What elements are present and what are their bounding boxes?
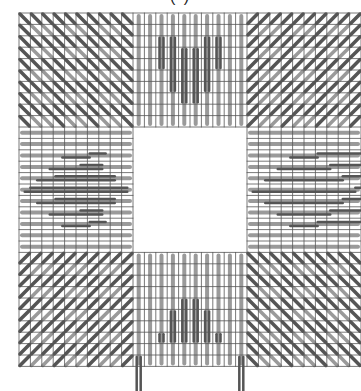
- stitch: [294, 322, 303, 331]
- stitch: [54, 310, 63, 319]
- stitch: [100, 48, 109, 57]
- stitch: [77, 288, 86, 297]
- stitch: [88, 276, 97, 285]
- stitch: [20, 345, 29, 354]
- stitch: [54, 14, 63, 23]
- stitch: [43, 299, 52, 308]
- stitch: [31, 14, 40, 23]
- stitch: [259, 94, 268, 103]
- stitch: [305, 48, 314, 57]
- stitch: [77, 94, 86, 103]
- stitch: [54, 25, 63, 34]
- stitch: [123, 265, 132, 274]
- stitch: [271, 299, 280, 308]
- stitch: [123, 71, 132, 80]
- stitch: [31, 60, 40, 69]
- stitch: [31, 48, 40, 57]
- stitch: [248, 14, 257, 23]
- stitch: [351, 276, 360, 285]
- stitch: [54, 276, 63, 285]
- stitch: [31, 345, 40, 354]
- stitch: [20, 333, 29, 342]
- stitch: [20, 105, 29, 114]
- stitch: [271, 310, 280, 319]
- stitch: [123, 345, 132, 354]
- stitch: [351, 333, 360, 342]
- stitch: [111, 310, 120, 319]
- stitch: [111, 105, 120, 114]
- stitch: [259, 333, 268, 342]
- stitch: [100, 276, 109, 285]
- stitch: [328, 37, 337, 46]
- stitch: [77, 117, 86, 126]
- stitch: [339, 310, 348, 319]
- stitch: [294, 356, 303, 365]
- stitch: [339, 60, 348, 69]
- stitch: [248, 276, 257, 285]
- stitch: [54, 82, 63, 91]
- stitch: [316, 299, 325, 308]
- stitch: [339, 333, 348, 342]
- stitch: [111, 82, 120, 91]
- stitch: [31, 37, 40, 46]
- stitch: [31, 276, 40, 285]
- stitch: [100, 71, 109, 80]
- stitch: [305, 105, 314, 114]
- stitch: [351, 71, 360, 80]
- stitch: [248, 345, 257, 354]
- stitch: [100, 60, 109, 69]
- stitch: [259, 82, 268, 91]
- stitch: [88, 105, 97, 114]
- stitch: [259, 345, 268, 354]
- stitch: [100, 299, 109, 308]
- stitch: [31, 322, 40, 331]
- stitch: [123, 276, 132, 285]
- stitch: [282, 253, 291, 262]
- stitch: [271, 265, 280, 274]
- stitch: [248, 37, 257, 46]
- stitch: [100, 356, 109, 365]
- stitch: [271, 37, 280, 46]
- stitch: [31, 299, 40, 308]
- stitch: [123, 25, 132, 34]
- stitch: [351, 322, 360, 331]
- stitch: [123, 82, 132, 91]
- stitch: [316, 333, 325, 342]
- stitch: [20, 14, 29, 23]
- stitch: [305, 25, 314, 34]
- stitch: [123, 356, 132, 365]
- stitch: [339, 265, 348, 274]
- stitch: [351, 310, 360, 319]
- stitch: [111, 333, 120, 342]
- stitch: [282, 276, 291, 285]
- stitch: [88, 117, 97, 126]
- stitch: [328, 94, 337, 103]
- stitch: [316, 345, 325, 354]
- stitch: [111, 94, 120, 103]
- stitch: [43, 94, 52, 103]
- stitch: [77, 253, 86, 262]
- stitch: [294, 48, 303, 57]
- stitch: [305, 253, 314, 262]
- stitch: [248, 25, 257, 34]
- stitch: [66, 14, 75, 23]
- stitch: [271, 60, 280, 69]
- stitch: [328, 265, 337, 274]
- stitch: [43, 25, 52, 34]
- stitch: [316, 288, 325, 297]
- stitch: [100, 82, 109, 91]
- stitch: [66, 288, 75, 297]
- stitch: [294, 299, 303, 308]
- stitch: [282, 333, 291, 342]
- stitch: [259, 299, 268, 308]
- stitch: [31, 265, 40, 274]
- stitch: [248, 71, 257, 80]
- stitch: [305, 71, 314, 80]
- stitch: [54, 356, 63, 365]
- stitch: [339, 253, 348, 262]
- stitch: [100, 253, 109, 262]
- stitch: [282, 48, 291, 57]
- stitch: [282, 288, 291, 297]
- stitch: [88, 37, 97, 46]
- stitch: [66, 310, 75, 319]
